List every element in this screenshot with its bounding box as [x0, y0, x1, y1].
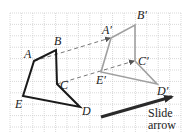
guide-arrows	[34, 38, 134, 84]
vertex-label: C′	[138, 54, 149, 68]
slide-arrow-label-line2: arrow	[148, 118, 176, 132]
vertex-label: B	[54, 34, 62, 48]
translation-diagram: ABCDEA′B′C′D′E′ Slide arrow	[0, 0, 191, 136]
vertex-label: E′	[95, 73, 106, 87]
vertex-labels: ABCDEA′B′C′D′E′	[14, 8, 169, 118]
guide-arrow	[34, 38, 110, 61]
vertex-label: A′	[101, 23, 112, 37]
vertex-label: E	[14, 97, 23, 111]
vertex-label: A	[23, 47, 32, 61]
vertex-label: C	[60, 78, 69, 92]
vertex-label: D′	[156, 84, 169, 98]
original-pentagon	[23, 50, 80, 107]
vertex-label: D	[81, 104, 91, 118]
vertex-label: B′	[137, 8, 147, 22]
